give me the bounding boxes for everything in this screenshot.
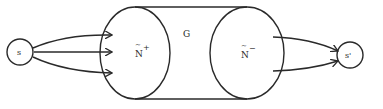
right-set-accent: ~ bbox=[241, 42, 247, 50]
right-set-superscript: − bbox=[249, 44, 256, 53]
source-label: s bbox=[17, 48, 21, 57]
right-set-label: N bbox=[241, 50, 249, 60]
flow-network-diagram: s s' G N ~ + N ~ − bbox=[0, 0, 383, 109]
diagram-svg: s s' G N ~ + N ~ − bbox=[0, 0, 383, 109]
sink-label: s' bbox=[345, 51, 351, 60]
left-set-accent: ~ bbox=[135, 41, 141, 49]
left-set-label: N bbox=[135, 49, 143, 59]
left-set-superscript: + bbox=[143, 43, 150, 52]
region-label: G bbox=[183, 29, 190, 39]
